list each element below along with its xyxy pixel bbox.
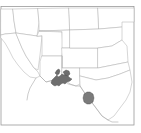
state-montana-wyoming-north [38,8,70,31]
range-patch-secondary [83,92,94,104]
coast-baja-peninsula [27,78,36,100]
state-minnesota-strip [98,8,134,29]
map-svg[interactable] [0,0,141,133]
state-colorado [62,48,98,68]
coast-gulf-of-mexico [108,120,118,122]
state-idaho-west [13,9,39,37]
state-dakota-strip [69,8,99,30]
map-thumbnail[interactable]: Southwestern United States distribution … [0,0,141,133]
